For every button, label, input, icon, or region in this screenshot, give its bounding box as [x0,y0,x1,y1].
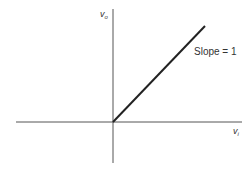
slope-line [113,26,205,122]
y-axis-label: vo [100,9,109,20]
x-axis-label: vi [233,126,240,137]
slope-annotation: Slope = 1 [194,46,237,57]
transfer-characteristic-diagram: vo vi Slope = 1 [0,0,252,170]
